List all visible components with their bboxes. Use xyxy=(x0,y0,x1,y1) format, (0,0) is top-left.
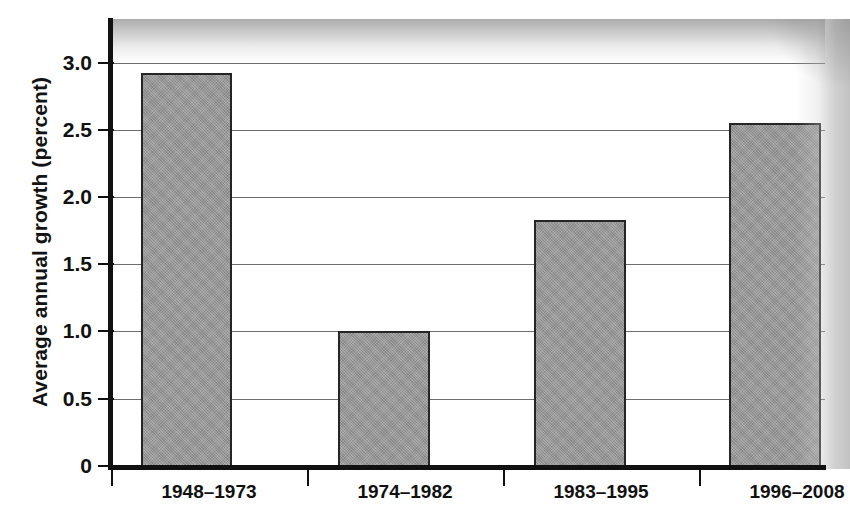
x-axis-tick-label-1996-2008: 1996–2008 xyxy=(749,481,844,503)
y-axis-tick-mark xyxy=(98,398,114,400)
y-axis-tick-mark xyxy=(98,62,114,64)
x-axis-tick-label-1948-1973: 1948–1973 xyxy=(161,481,256,503)
scan-shading-corner xyxy=(770,19,850,89)
y-axis-tick-label: 2.0 xyxy=(22,185,92,209)
gridline xyxy=(111,63,825,64)
scan-shading-top xyxy=(112,19,825,63)
y-axis-tick-label: 0 xyxy=(22,454,92,478)
y-axis-tick-label: 0.5 xyxy=(22,387,92,411)
x-axis-tick-mark xyxy=(699,469,701,486)
x-axis-line xyxy=(108,465,826,470)
bar-1996-2008 xyxy=(729,123,821,467)
bar-1974-1982 xyxy=(338,331,430,467)
x-axis-tick-label-1983-1995: 1983–1995 xyxy=(553,481,648,503)
y-axis-line xyxy=(108,18,113,469)
y-axis-tick-label: 3.0 xyxy=(22,51,92,75)
y-axis-tick-mark xyxy=(98,196,114,198)
x-axis-tick-mark xyxy=(503,469,505,486)
y-axis-tick-label: 1.0 xyxy=(22,319,92,343)
y-axis-tick-mark xyxy=(98,465,114,467)
y-axis-tick-label: 1.5 xyxy=(22,252,92,276)
x-axis-tick-mark xyxy=(307,469,309,486)
bar-1948-1973 xyxy=(141,73,232,467)
y-axis-tick-label: 2.5 xyxy=(22,118,92,142)
y-axis-tick-mark xyxy=(98,330,114,332)
bar-1983-1995 xyxy=(534,220,626,467)
x-axis-tick-label-1974-1982: 1974–1982 xyxy=(357,481,452,503)
x-axis-tick-mark xyxy=(111,469,113,486)
chart-figure: Average annual growth (percent) 3.0 2.5 … xyxy=(0,0,850,519)
y-axis-tick-mark xyxy=(98,129,114,131)
y-axis-tick-label-group: 3.0 2.5 2.0 1.5 1.0 0.5 0 xyxy=(20,0,92,519)
y-axis-tick-mark xyxy=(98,263,114,265)
